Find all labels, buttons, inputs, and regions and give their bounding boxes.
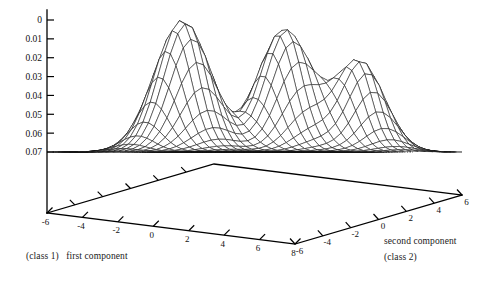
surface-mesh <box>47 21 462 152</box>
y-axis-tick-label: 4 <box>436 205 441 215</box>
vertical-axis-tick-label: 0.01 <box>25 34 42 44</box>
y-axis-back-tick <box>98 192 103 197</box>
x-axis-tick <box>189 225 195 231</box>
x-axis-tick-label: 6 <box>256 243 261 253</box>
y-axis-back-tick <box>70 200 75 205</box>
x-axis-tick <box>224 230 230 236</box>
x-axis-tick-label: -2 <box>113 225 121 235</box>
x-axis-tick-label: 0 <box>150 230 155 240</box>
x-axis-tick <box>153 221 159 227</box>
x-axis-label: (class 1) first component <box>26 251 128 261</box>
x-axis-tick <box>260 234 266 240</box>
y-axis-back-tick <box>181 167 186 172</box>
vertical-axis-tick-label: 0.05 <box>25 110 42 120</box>
vertical-axis-tick-label: 0.04 <box>25 91 42 101</box>
x-axis-label-class: (class 1) <box>26 251 59 261</box>
y-axis-tick <box>318 230 323 236</box>
y-axis-tick <box>401 206 406 212</box>
y-axis-tick <box>429 198 434 204</box>
y-axis-back-tick <box>126 184 131 189</box>
x-axis-tick-label: 4 <box>220 239 225 249</box>
vertical-axis-tick-label: 0.07 <box>25 147 42 157</box>
y-axis-tick-label: 0 <box>381 221 386 231</box>
axis-box-back <box>47 164 462 213</box>
vertical-axis-tick-label: 0.06 <box>25 129 42 139</box>
y-axis-tick <box>374 214 379 220</box>
x-axis-label-name: first component <box>66 251 127 261</box>
y-axis-tick <box>346 222 351 228</box>
y-axis-tick-label: -4 <box>324 237 332 247</box>
x-axis-tick-label: -6 <box>42 217 50 227</box>
vertical-axis-tick-label: 0 <box>37 15 42 25</box>
figure-3d-surface-plot: 0.070.060.050.040.030.020.010-6-4-202468… <box>0 0 494 282</box>
vertical-axis-tick-label: 0.03 <box>25 72 42 82</box>
y-axis-label-class: (class 2) <box>384 252 417 262</box>
y-axis-label-name: second component <box>384 236 457 246</box>
x-axis-tick-label: 2 <box>185 234 190 244</box>
x-axis-tick-label: -4 <box>77 221 85 231</box>
y-axis-tick-label: 2 <box>409 213 414 223</box>
x-axis-tick <box>118 216 124 222</box>
x-axis-tick <box>82 212 88 218</box>
y-axis-tick-label: 6 <box>464 197 469 207</box>
vertical-axis-tick-label: 0.02 <box>25 53 42 63</box>
axis-back-edges-visible <box>47 164 462 213</box>
y-axis-back-tick <box>153 175 158 180</box>
y-axis-tick-label: -6 <box>296 246 304 256</box>
y-axis-tick-label: -2 <box>351 229 359 239</box>
